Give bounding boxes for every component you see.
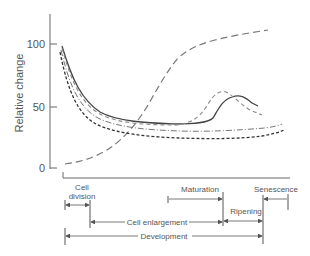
- curve-solid: [62, 46, 258, 124]
- phase-label-cell-division-1: Cell: [75, 183, 89, 192]
- phase-label-senescence: Senescence: [254, 185, 299, 194]
- phase-label-development: Development: [140, 232, 188, 241]
- y-tick-label-50: 50: [33, 101, 45, 113]
- curve-heavy-dash: [60, 52, 284, 139]
- y-tick-label-100: 100: [27, 38, 45, 50]
- fruit-development-diagram: 100 50 0 Relative change Cell division M…: [0, 0, 310, 256]
- phase-annotations: Cell division Maturation Ripening Senesc…: [65, 183, 299, 245]
- phase-label-ripening: Ripening: [230, 207, 262, 216]
- y-axis-label: Relative change: [13, 54, 25, 133]
- curves: [60, 30, 284, 164]
- phase-label-cell-division-2: division: [69, 192, 96, 201]
- curve-short-dash: [62, 48, 262, 125]
- y-axis: 100 50 0 Relative change: [13, 14, 57, 174]
- phase-label-cell-enlargement: Cell enlargement: [127, 218, 188, 227]
- y-tick-label-0: 0: [39, 162, 45, 174]
- x-axis: [63, 172, 290, 178]
- phase-label-maturation: Maturation: [181, 185, 219, 194]
- curve-long-dash: [65, 30, 268, 164]
- curve-dash-dot: [61, 50, 282, 131]
